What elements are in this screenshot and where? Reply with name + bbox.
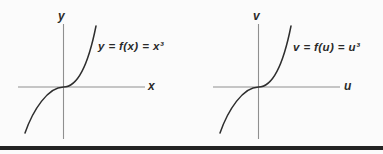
left-cubic-curve bbox=[25, 26, 96, 133]
left-y-axis-label: y bbox=[58, 10, 65, 22]
left-equation-label: y = f(x) = x³ bbox=[98, 41, 164, 53]
right-v-axis-label: v bbox=[253, 10, 260, 22]
right-cubic-curve bbox=[220, 26, 291, 133]
cubic-function-figure: y x y = f(x) = x³ v u v = f(u) = u³ bbox=[0, 0, 383, 154]
right-u-axis-label: u bbox=[344, 80, 351, 92]
bottom-rule-divider bbox=[0, 146, 383, 150]
plots-canvas bbox=[0, 0, 383, 154]
left-x-axis-label: x bbox=[148, 80, 155, 92]
right-equation-label: v = f(u) = u³ bbox=[293, 42, 360, 54]
